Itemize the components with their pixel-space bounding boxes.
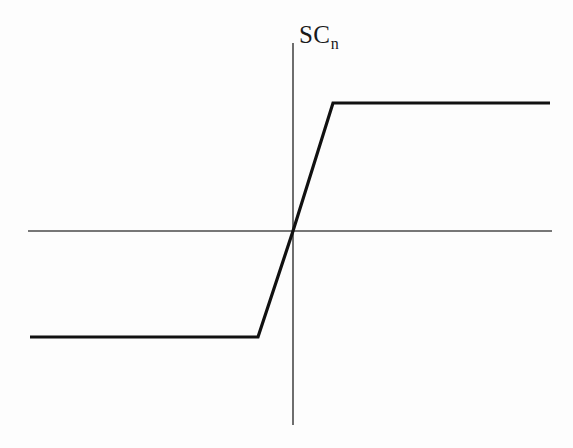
y-axis-label-subscript: n [331, 35, 339, 52]
transfer-function-plot [0, 0, 573, 448]
y-axis-label: SCn [299, 22, 339, 47]
figure-container: SCn [0, 0, 573, 448]
y-axis-label-base: SC [299, 21, 330, 48]
transfer-curve [30, 103, 550, 337]
